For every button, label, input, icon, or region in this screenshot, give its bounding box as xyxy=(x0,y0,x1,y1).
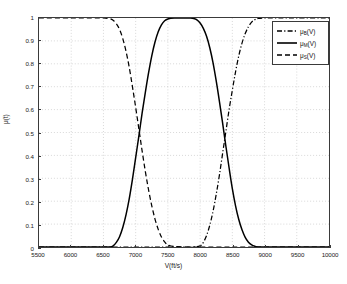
x-tickmark xyxy=(330,245,331,248)
y-tickmark xyxy=(38,179,41,180)
legend-line-sample xyxy=(276,51,298,59)
legend-line-sample xyxy=(276,39,298,47)
y-tickmark xyxy=(38,133,41,134)
x-tickmark xyxy=(70,245,71,248)
legend-line-sample xyxy=(276,27,298,35)
x-tickmark xyxy=(135,245,136,248)
y-tick-label: 1 xyxy=(8,14,34,21)
y-tickmark xyxy=(38,63,41,64)
legend-entry-B[interactable]: μB(V) xyxy=(276,25,325,37)
x-tick-label: 8000 xyxy=(194,251,207,258)
y-tick-label: 0 xyxy=(8,245,34,252)
y-tickmark xyxy=(38,40,41,41)
x-tick-label: 6000 xyxy=(64,251,77,258)
y-tick-label: 0.8 xyxy=(8,60,34,67)
x-tick-label: 5500 xyxy=(31,251,44,258)
y-tickmark xyxy=(38,86,41,87)
legend-label: μM(V) xyxy=(300,40,316,47)
x-axis-label: V(ft/s) xyxy=(0,262,347,269)
y-tick-label: 0.9 xyxy=(8,37,34,44)
x-tick-label: 6500 xyxy=(96,251,109,258)
y-tickmark xyxy=(38,225,41,226)
legend-label: μS(V) xyxy=(300,52,315,59)
legend-entry-M[interactable]: μM(V) xyxy=(276,37,325,49)
x-tickmark xyxy=(233,245,234,248)
x-tick-label: 8500 xyxy=(226,251,239,258)
x-tickmark xyxy=(168,245,169,248)
y-tick-label: 0.1 xyxy=(8,221,34,228)
x-tick-label: 7000 xyxy=(129,251,142,258)
y-tickmark xyxy=(38,156,41,157)
x-tick-label: 7500 xyxy=(161,251,174,258)
x-tick-label: 9500 xyxy=(291,251,304,258)
x-tickmark xyxy=(298,245,299,248)
y-tick-label: 0.7 xyxy=(8,83,34,90)
y-tickmark xyxy=(38,109,41,110)
y-tickmark xyxy=(38,17,41,18)
y-tick-label: 0.2 xyxy=(8,198,34,205)
legend-entry-S[interactable]: μS(V) xyxy=(276,49,325,61)
x-tick-label: 9000 xyxy=(258,251,271,258)
legend: μB(V)μM(V)μS(V) xyxy=(272,21,329,65)
y-tick-label: 0.3 xyxy=(8,175,34,182)
y-tick-label: 0.5 xyxy=(8,129,34,136)
y-tickmark xyxy=(38,202,41,203)
x-tickmark xyxy=(265,245,266,248)
legend-label: μB(V) xyxy=(300,28,315,35)
x-tickmark xyxy=(103,245,104,248)
figure-canvas: μ(t) 55006000650070007500800085009000950… xyxy=(0,0,347,284)
x-tickmark xyxy=(200,245,201,248)
y-axis-label: μ(t) xyxy=(2,114,9,124)
y-tickmark xyxy=(38,248,41,249)
y-tick-label: 0.4 xyxy=(8,152,34,159)
y-tick-label: 0.6 xyxy=(8,106,34,113)
x-tick-label: 10000 xyxy=(322,251,339,258)
